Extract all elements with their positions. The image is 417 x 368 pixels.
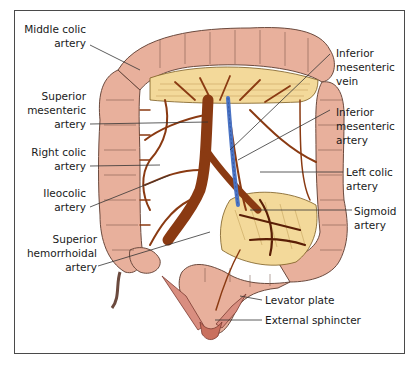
label-line: Superior: [27, 89, 86, 103]
label-line: Right colic: [31, 145, 86, 159]
label-external-sphincter: External sphincter: [265, 313, 361, 327]
label-line: Inferior: [336, 105, 395, 119]
label-line: artery: [43, 200, 86, 214]
label-line: External sphincter: [265, 313, 361, 327]
label-middle-colic-artery: Middle colic artery: [24, 22, 86, 50]
label-line: vein: [336, 74, 395, 88]
label-sigmoid-artery: Sigmoid artery: [354, 204, 396, 232]
label-levator-plate: Levator plate: [265, 293, 335, 307]
label-inferior-mesenteric-artery: Inferior mesenteric artery: [336, 105, 395, 147]
label-left-colic-artery: Left colic artery: [346, 165, 393, 193]
label-inferior-mesenteric-vein: Inferior mesenteric vein: [336, 46, 395, 88]
label-ileocolic-artery: Ileocolic artery: [43, 186, 86, 214]
label-line: Superior: [27, 232, 97, 246]
label-line: Left colic: [346, 165, 393, 179]
label-line: Middle colic: [24, 22, 86, 36]
ascending-colon: [99, 70, 143, 273]
label-line: artery: [27, 260, 97, 274]
label-line: Inferior: [336, 46, 395, 60]
label-line: hemorrhoidal: [27, 246, 97, 260]
label-superior-hemorrhoidal-artery: Superior hemorrhoidal artery: [27, 232, 97, 274]
label-line: artery: [24, 36, 86, 50]
label-line: Ileocolic: [43, 186, 86, 200]
label-line: mesenteric: [27, 103, 86, 117]
label-line: artery: [354, 218, 396, 232]
label-line: Levator plate: [265, 293, 335, 307]
label-line: mesenteric: [336, 119, 395, 133]
label-line: artery: [31, 159, 86, 173]
label-superior-mesenteric-artery: Superior mesenteric artery: [27, 89, 86, 131]
sigmoid-mesocolon: [220, 192, 317, 265]
label-line: artery: [346, 179, 393, 193]
transverse-mesocolon: [150, 67, 318, 103]
label-right-colic-artery: Right colic artery: [31, 145, 86, 173]
label-line: Sigmoid: [354, 204, 396, 218]
appendix: [112, 272, 120, 308]
label-line: artery: [336, 133, 395, 147]
label-line: mesenteric: [336, 60, 395, 74]
inferior-mesenteric-vein: [228, 98, 238, 205]
label-line: artery: [27, 117, 86, 131]
